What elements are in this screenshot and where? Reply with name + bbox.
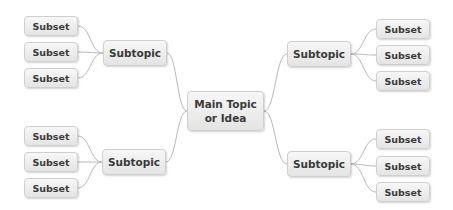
subtopic-node-bottom-right[interactable]: Subtopic	[287, 151, 351, 177]
connector-bottom-right-subset-1	[351, 139, 376, 164]
subset-node-bottom-left-1[interactable]: Subset	[24, 126, 78, 146]
subtopic-node-bottom-left[interactable]: Subtopic	[102, 149, 166, 175]
subset-node-top-left-2[interactable]: Subset	[24, 42, 78, 62]
connector-top-right-subset-1	[351, 29, 376, 54]
connector-bottom-left-subset-3	[78, 162, 102, 188]
connector-main-top-left	[167, 53, 187, 111]
subset-node-bottom-left-2[interactable]: Subset	[24, 152, 78, 172]
connector-main-bottom-left	[166, 111, 187, 162]
connector-bottom-left-subset-1	[78, 136, 102, 162]
subset-node-top-right-3[interactable]: Subset	[376, 71, 430, 91]
subset-node-top-left-3[interactable]: Subset	[24, 68, 78, 88]
subtopic-node-top-right[interactable]: Subtopic	[287, 41, 351, 67]
connector-main-bottom-right	[264, 111, 287, 164]
connector-bottom-right-subset-3	[351, 164, 376, 192]
subset-node-bottom-right-3[interactable]: Subset	[376, 182, 430, 202]
subset-node-bottom-left-3[interactable]: Subset	[24, 178, 78, 198]
subset-node-top-right-2[interactable]: Subset	[376, 45, 430, 65]
connector-top-right-subset-3	[351, 54, 376, 81]
subtopic-node-top-left[interactable]: Subtopic	[103, 40, 167, 66]
main-topic-node[interactable]: Main Topic or Idea	[187, 91, 264, 131]
subset-node-top-right-1[interactable]: Subset	[376, 19, 430, 39]
connector-main-top-right	[264, 54, 287, 111]
subset-node-bottom-right-2[interactable]: Subset	[376, 156, 430, 176]
subset-node-top-left-1[interactable]: Subset	[24, 16, 78, 36]
connector-top-left-subset-1	[78, 26, 103, 53]
subset-node-bottom-right-1[interactable]: Subset	[376, 129, 430, 149]
connector-top-left-subset-3	[78, 53, 103, 78]
